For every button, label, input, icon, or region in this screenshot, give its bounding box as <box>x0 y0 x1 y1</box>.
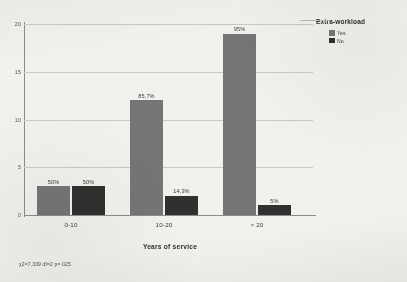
bar-label-over-20-yes: 95% <box>234 26 246 32</box>
y-tick-10: 10 <box>15 117 21 123</box>
bar-label-0-10-no: 50% <box>83 179 95 185</box>
bar-0-10-yes[interactable]: 50% <box>37 186 70 215</box>
bar-0-10-no[interactable]: 50% <box>72 186 105 215</box>
bar-group-0-10: 50% 50% 0-10 <box>37 24 109 215</box>
bar-over-20-yes[interactable]: 95% <box>223 34 256 215</box>
legend-item-no[interactable]: No <box>329 38 404 44</box>
plot-area: 50% 50% 0-10 85,7% 14,3% 10-20 95% 5% <box>24 24 313 215</box>
category-label-over-20: > 20 <box>250 221 263 228</box>
bar-10-20-no[interactable]: 14,3% <box>165 196 198 215</box>
bar-10-20-yes[interactable]: 85,7% <box>130 100 163 215</box>
legend-swatch-yes-icon <box>329 30 335 36</box>
chi-square-footnote: χ2=7,339 df=2 p=.025 <box>19 261 71 267</box>
y-tick-20: 20 <box>15 21 21 27</box>
category-label-10-20: 10-20 <box>156 221 173 228</box>
bar-over-20-no[interactable]: 5% <box>258 205 291 215</box>
y-tick-15: 15 <box>15 69 21 75</box>
legend-label-yes: Yes <box>337 30 346 36</box>
bar-label-10-20-no: 14,3% <box>173 188 189 194</box>
legend-items: Yes No <box>316 30 404 44</box>
x-axis-title: Years of service <box>24 243 316 250</box>
legend-separator-rule <box>300 20 330 21</box>
bar-group-10-20: 85,7% 14,3% 10-20 <box>130 24 202 215</box>
y-tick-0: 0 <box>18 212 21 218</box>
bar-label-10-20-yes: 85,7% <box>138 93 154 99</box>
x-axis-line <box>24 215 316 216</box>
bar-group-over-20: 95% 5% > 20 <box>223 24 295 215</box>
bar-label-0-10-yes: 50% <box>48 179 60 185</box>
bar-label-over-20-no: 5% <box>270 198 278 204</box>
legend: Extra-workload Yes No <box>316 18 404 45</box>
legend-swatch-no-icon <box>329 38 335 44</box>
legend-label-no: No <box>337 38 344 44</box>
y-tick-5: 5 <box>18 164 21 170</box>
legend-item-yes[interactable]: Yes <box>329 30 404 36</box>
category-label-0-10: 0-10 <box>64 221 77 228</box>
bar-chart: 20 15 10 5 0 50% 50% 0-10 85,7% <box>0 0 407 282</box>
y-axis-tick-labels: 20 15 10 5 0 <box>0 0 21 282</box>
